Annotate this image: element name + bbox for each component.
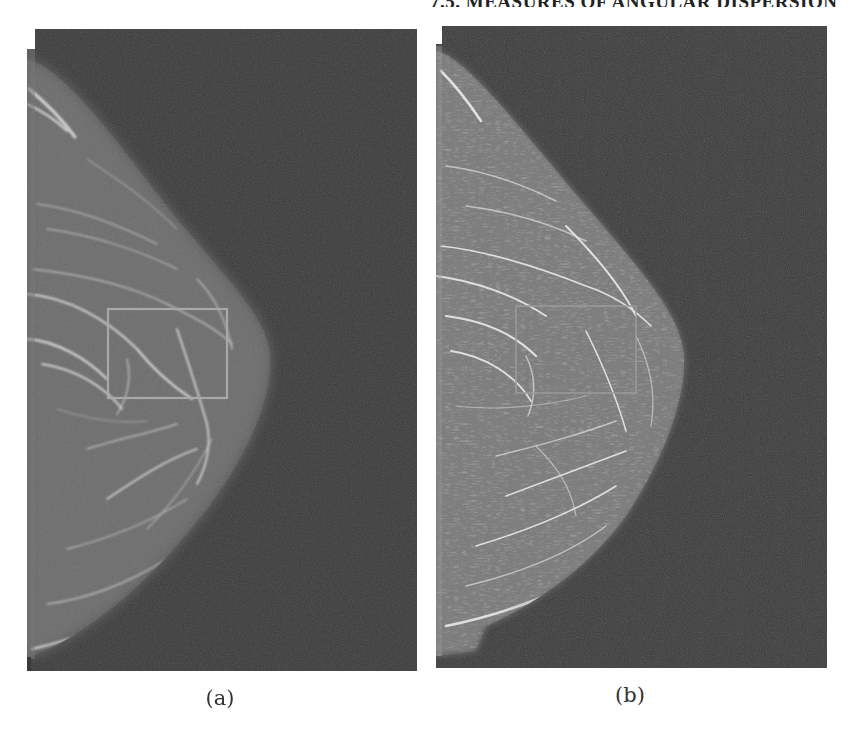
caption-b: (b)	[600, 683, 660, 707]
running-head: 7.5. MEASURES OF ANGULAR DISPERSION	[430, 0, 857, 7]
mammogram-a-graphic	[27, 29, 417, 671]
caption-a: (a)	[190, 686, 250, 710]
mammogram-image-a	[27, 29, 417, 671]
mammogram-image-b	[436, 26, 827, 668]
mammogram-b-graphic	[436, 26, 827, 668]
